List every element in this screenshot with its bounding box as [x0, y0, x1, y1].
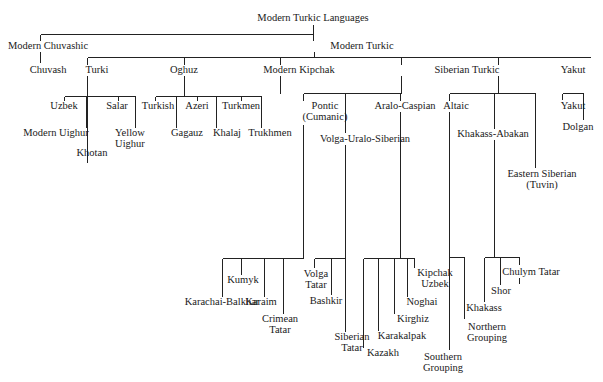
node-karakalpak: Karakalpak: [378, 330, 426, 341]
node-khalaj: Khalaj: [213, 127, 241, 138]
node-modern-uighur: Modern Uighur: [23, 127, 89, 138]
node-volga-uralo-siberian: Volga-Uralo-Siberian: [320, 133, 410, 144]
node-bashkir: Bashkir: [310, 295, 343, 306]
node-noghai: Noghai: [407, 296, 438, 307]
node-modern-chuvashic: Modern Chuvashic: [8, 40, 88, 51]
tree-connectors: [0, 0, 603, 382]
node-khotan: Khotan: [77, 147, 108, 158]
node-azeri: Azeri: [185, 100, 208, 111]
node-chuvash: Chuvash: [30, 64, 67, 75]
node-volga-tatar: Volga Tatar: [304, 268, 328, 290]
node-northern-grouping: Northern Grouping: [467, 321, 507, 343]
node-pontic: Pontic (Cumanic): [303, 100, 348, 122]
node-altaic: Altaic: [443, 100, 469, 111]
node-eastern-siberian: Eastern Siberian (Tuvin): [507, 168, 576, 190]
node-yakut: Yakut: [561, 100, 586, 111]
node-yellow-uighur: Yellow Uighur: [115, 127, 145, 149]
node-salar: Salar: [106, 100, 128, 111]
node-siberian-turkic: Siberian Turkic: [434, 64, 499, 75]
node-kipchak-uzbek: Kipchak Uzbek: [417, 267, 453, 289]
node-kirghiz: Kirghiz: [397, 313, 429, 324]
node-turkish: Turkish: [142, 100, 174, 111]
node-aralo-caspian: Aralo-Caspian: [374, 100, 435, 111]
node-dolgan: Dolgan: [563, 121, 594, 132]
node-turkmen: Turkmen: [222, 100, 260, 111]
node-yakut-group: Yakut: [561, 64, 586, 75]
node-uzbek: Uzbek: [50, 100, 77, 111]
node-root: Modern Turkic Languages: [257, 12, 368, 23]
node-trukhmen: Trukhmen: [248, 127, 291, 138]
node-crimean-tatar: Crimean Tatar: [262, 313, 298, 335]
node-southern-grouping: Southern Grouping: [423, 351, 463, 373]
node-khakass: Khakass: [466, 302, 502, 313]
node-modern-turkic: Modern Turkic: [330, 40, 393, 51]
node-modern-kipchak: Modern Kipchak: [263, 64, 334, 75]
node-chulym-tatar: Chulym Tatar: [502, 266, 560, 277]
node-shor: Shor: [491, 285, 511, 296]
node-gagauz: Gagauz: [171, 127, 203, 138]
node-khakass-abakan: Khakass-Abakan: [457, 128, 529, 139]
node-siberian-tatar: Siberian Tatar: [335, 331, 370, 353]
node-oghuz: Oghuz: [170, 64, 198, 75]
node-turki: Turki: [86, 64, 109, 75]
node-kazakh: Kazakh: [367, 347, 399, 358]
node-karaim: Karaim: [245, 296, 277, 307]
node-kumyk: Kumyk: [227, 274, 259, 285]
